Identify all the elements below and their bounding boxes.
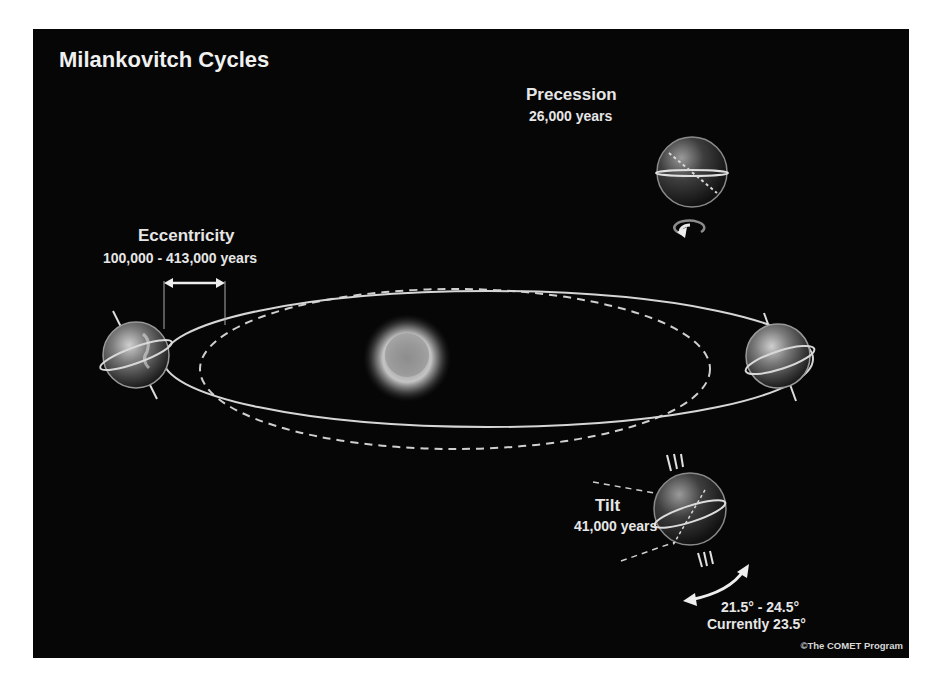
precession-rotation-arrow-icon [674, 221, 704, 238]
precession-globe [656, 137, 728, 207]
precession-period: 26,000 years [529, 108, 612, 124]
copyright-credit: ©The COMET Program [800, 640, 903, 651]
orbit-elliptical [163, 291, 813, 427]
orbit-circular-dashed [200, 289, 710, 449]
orbit-diagram [33, 29, 909, 658]
tilt-current: Currently 23.5° [707, 616, 806, 632]
precession-label: Precession [526, 85, 617, 105]
diagram-title: Milankovitch Cycles [59, 47, 269, 73]
earth-right [743, 313, 817, 401]
tilt-range: 21.5° - 24.5° [721, 599, 799, 615]
earth-left [98, 311, 175, 399]
sun [363, 314, 451, 402]
eccentricity-label: Eccentricity [138, 226, 234, 246]
eccentricity-period: 100,000 - 413,000 years [103, 250, 257, 266]
tilt-period: 41,000 years [574, 518, 657, 534]
diagram-panel: Milankovitch Cycles Precession 26,000 ye… [33, 29, 909, 658]
tilt-label: Tilt [595, 496, 620, 516]
